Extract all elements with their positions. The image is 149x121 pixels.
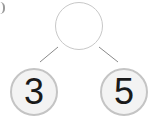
part-value-right: 5 — [114, 74, 134, 110]
part-value-left: 3 — [24, 74, 44, 110]
part-circle-right: 5 — [100, 68, 148, 116]
whole-circle[interactable] — [55, 2, 103, 50]
part-circle-left: 3 — [10, 68, 58, 116]
right-bond-line — [99, 47, 118, 62]
left-bond-line — [40, 47, 58, 62]
